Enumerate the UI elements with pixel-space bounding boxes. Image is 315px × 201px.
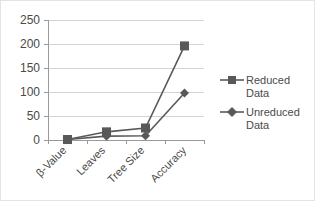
x-tick-label-accuracy: Accuracy: [148, 144, 189, 185]
chart-legend: Reduced Data Unreduced Data: [220, 74, 300, 131]
square-marker-icon: [228, 76, 236, 84]
y-tick-label-150: 150: [20, 61, 40, 75]
y-tick-label-50: 50: [27, 109, 41, 123]
series-lines: [68, 46, 185, 140]
legend-item-unreduced-data[interactable]: Unreduced Data: [220, 106, 300, 131]
x-tick-label-tree-size: Tree Size: [105, 144, 146, 185]
series-line-reduced-data: [68, 46, 185, 140]
legend-label-unreduced-line2: Data: [246, 119, 270, 131]
y-axis-tick-labels: 250 200 150 100 50 0: [20, 13, 40, 147]
y-tick-label-100: 100: [20, 85, 40, 99]
x-tick-label-leaves: Leaves: [74, 144, 108, 178]
y-tick-label-250: 250: [20, 13, 40, 27]
y-tick-label-200: 200: [20, 37, 40, 51]
x-tick-label-beta-value: β-Value: [34, 144, 69, 179]
legend-label-reduced-line2: Data: [246, 87, 270, 99]
x-axis-tick-labels: β-Value Leaves Tree Size Accuracy: [34, 144, 189, 186]
diamond-marker-icon: [227, 107, 237, 117]
data-point-square: [141, 124, 150, 133]
y-axis: [44, 20, 48, 140]
chart-container: 250 200 150 100 50 0 β-Value Leaves Tree…: [0, 0, 315, 201]
data-point-square: [180, 41, 189, 50]
gridlines: [48, 20, 204, 116]
line-chart: 250 200 150 100 50 0 β-Value Leaves Tree…: [1, 1, 315, 201]
legend-label-reduced-line1: Reduced: [246, 74, 290, 86]
series-markers-reduced-data: [63, 41, 189, 144]
legend-label-unreduced-line1: Unreduced: [246, 106, 300, 118]
legend-item-reduced-data[interactable]: Reduced Data: [220, 74, 290, 99]
y-tick-label-0: 0: [33, 133, 40, 147]
